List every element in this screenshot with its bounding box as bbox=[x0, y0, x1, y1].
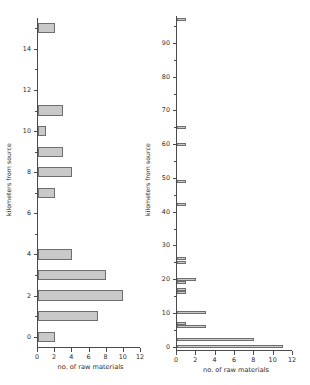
left-y-tick-label: 10 bbox=[9, 127, 31, 135]
right-x-tick-label: 6 bbox=[224, 356, 244, 364]
left-bar bbox=[38, 249, 72, 259]
right-y-tick-major bbox=[173, 347, 177, 348]
left-bar bbox=[38, 147, 64, 157]
figure-container: kilometers from source 02468101214024681… bbox=[0, 0, 310, 385]
left-y-tick-label: 2 bbox=[9, 292, 31, 300]
right-y-tick-minor bbox=[174, 26, 176, 27]
left-x-tick bbox=[71, 348, 72, 352]
right-bar bbox=[177, 345, 283, 348]
right-bar bbox=[177, 257, 187, 260]
right-y-tick-major bbox=[173, 144, 177, 145]
right-bar bbox=[177, 338, 254, 341]
left-y-tick-minor bbox=[35, 234, 37, 235]
right-bar bbox=[177, 143, 187, 146]
right-y-tick-label: 20 bbox=[148, 275, 170, 283]
right-y-tick-minor bbox=[174, 229, 176, 230]
right-y-tick-label: 30 bbox=[148, 241, 170, 249]
right-y-tick-label: 80 bbox=[148, 73, 170, 81]
left-x-tick bbox=[123, 348, 124, 352]
right-y-tick-label: 10 bbox=[148, 309, 170, 317]
right-y-tick-major bbox=[173, 178, 177, 179]
right-x-tick bbox=[215, 351, 216, 355]
right-bar bbox=[177, 322, 187, 325]
left-bar bbox=[38, 126, 47, 136]
right-y-tick-label: 90 bbox=[148, 39, 170, 47]
right-y-tick-label: 50 bbox=[148, 174, 170, 182]
right-y-tick-major bbox=[173, 110, 177, 111]
right-y-tick-major bbox=[173, 279, 177, 280]
left-y-tick-major bbox=[34, 49, 38, 50]
right-x-tick-label: 4 bbox=[205, 356, 225, 364]
left-x-tick bbox=[89, 348, 90, 352]
chart-panel-left: kilometers from source 02468101214024681… bbox=[0, 0, 155, 385]
right-bar bbox=[177, 126, 187, 129]
right-x-tick bbox=[176, 351, 177, 355]
right-x-tick-label: 0 bbox=[166, 356, 186, 364]
left-y-tick-label: 6 bbox=[9, 209, 31, 217]
left-x-tick bbox=[140, 348, 141, 352]
right-x-tick bbox=[273, 351, 274, 355]
right-y-tick-major bbox=[173, 43, 177, 44]
right-bar bbox=[177, 278, 196, 281]
chart-panel-right: kilometers from source 01020304050607080… bbox=[150, 0, 310, 385]
right-y-axis-line bbox=[176, 16, 177, 350]
right-y-tick-major bbox=[173, 212, 177, 213]
right-y-tick-label: 60 bbox=[148, 140, 170, 148]
right-x-tick bbox=[253, 351, 254, 355]
left-y-tick-label: 0 bbox=[9, 333, 31, 341]
left-bar bbox=[38, 270, 107, 280]
left-x-tick bbox=[106, 348, 107, 352]
right-y-tick-major bbox=[173, 77, 177, 78]
right-bar bbox=[177, 261, 187, 264]
left-y-tick-major bbox=[34, 90, 38, 91]
left-bar bbox=[38, 188, 55, 198]
left-bar bbox=[38, 311, 98, 321]
right-bar bbox=[177, 311, 206, 314]
right-bar bbox=[177, 288, 187, 291]
left-x-tick bbox=[37, 348, 38, 352]
right-x-tick bbox=[234, 351, 235, 355]
right-x-tick bbox=[292, 351, 293, 355]
right-x-tick-label: 10 bbox=[263, 356, 283, 364]
left-y-tick-label: 4 bbox=[9, 250, 31, 258]
right-x-tick-label: 8 bbox=[243, 356, 263, 364]
left-bar bbox=[38, 105, 64, 115]
left-bar bbox=[38, 332, 55, 342]
left-bar bbox=[38, 23, 55, 33]
left-y-tick-major bbox=[34, 213, 38, 214]
left-x-tick bbox=[54, 348, 55, 352]
right-x-axis-title: no. of raw materials bbox=[201, 366, 271, 374]
left-y-tick-label: 14 bbox=[9, 45, 31, 53]
right-bar bbox=[177, 281, 187, 284]
left-y-tick-label: 12 bbox=[9, 86, 31, 94]
left-y-tick-major bbox=[34, 172, 38, 173]
right-x-tick-label: 2 bbox=[185, 356, 205, 364]
left-x-tick-label: 12 bbox=[130, 353, 150, 361]
right-bar bbox=[177, 325, 206, 328]
left-y-tick-major bbox=[34, 254, 38, 255]
right-x-tick-label: 12 bbox=[282, 356, 302, 364]
right-x-tick bbox=[195, 351, 196, 355]
right-y-tick-minor bbox=[174, 195, 176, 196]
right-bar bbox=[177, 18, 187, 21]
left-y-tick-major bbox=[34, 131, 38, 132]
right-bar bbox=[177, 203, 187, 206]
left-bar bbox=[38, 167, 72, 177]
right-bar bbox=[177, 180, 187, 183]
right-y-tick-minor bbox=[174, 94, 176, 95]
right-y-tick-major bbox=[173, 245, 177, 246]
left-x-axis-title: no. of raw materials bbox=[56, 363, 126, 371]
right-y-tick-label: 40 bbox=[148, 208, 170, 216]
right-y-tick-minor bbox=[174, 60, 176, 61]
left-y-tick-major bbox=[34, 296, 38, 297]
right-y-tick-label: 70 bbox=[148, 106, 170, 114]
right-y-tick-minor bbox=[174, 296, 176, 297]
left-y-tick-major bbox=[34, 337, 38, 338]
right-y-tick-label: 0 bbox=[148, 343, 170, 351]
right-bar bbox=[177, 291, 187, 294]
right-y-tick-minor bbox=[174, 161, 176, 162]
left-y-tick-minor bbox=[35, 69, 37, 70]
left-y-tick-label: 8 bbox=[9, 168, 31, 176]
left-y-axis-title: kilometers from source bbox=[5, 143, 12, 216]
left-bar bbox=[38, 290, 124, 300]
